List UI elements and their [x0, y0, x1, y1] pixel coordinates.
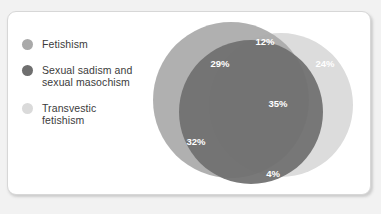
- legend-swatch-transvestic-fetishism: [22, 103, 33, 114]
- legend-label-fetishism: Fetishism: [42, 38, 88, 51]
- legend-label-transvestic-fetishism: Transvestic fetishism: [42, 102, 96, 127]
- legend-swatch-sexual-sadism-masochism: [22, 65, 33, 76]
- venn-label-bottom: 4%: [266, 168, 280, 179]
- legend-swatch-fetishism: [22, 39, 33, 50]
- chart-card: Fetishism Sexual sadism and sexual masoc…: [7, 11, 371, 195]
- venn-label-upper-right: 24%: [315, 58, 335, 69]
- legend-item-fetishism: Fetishism: [22, 38, 172, 51]
- venn-label-top: 12%: [255, 36, 275, 47]
- venn-label-lower-left: 32%: [186, 136, 206, 147]
- venn-diagram: 12% 29% 24% 35% 32% 37% 4%: [153, 12, 371, 195]
- venn-label-upper-left: 29%: [210, 58, 230, 69]
- legend-label-sexual-sadism-masochism: Sexual sadism and sexual masochism: [42, 64, 132, 89]
- venn-label-right: 37%: [350, 134, 370, 145]
- legend-item-transvestic-fetishism: Transvestic fetishism: [22, 102, 172, 127]
- venn-circle-sexual-sadism-masochism: [179, 40, 323, 184]
- legend: Fetishism Sexual sadism and sexual masoc…: [22, 38, 172, 140]
- venn-label-center: 35%: [268, 98, 288, 109]
- legend-item-sexual-sadism-masochism: Sexual sadism and sexual masochism: [22, 64, 172, 89]
